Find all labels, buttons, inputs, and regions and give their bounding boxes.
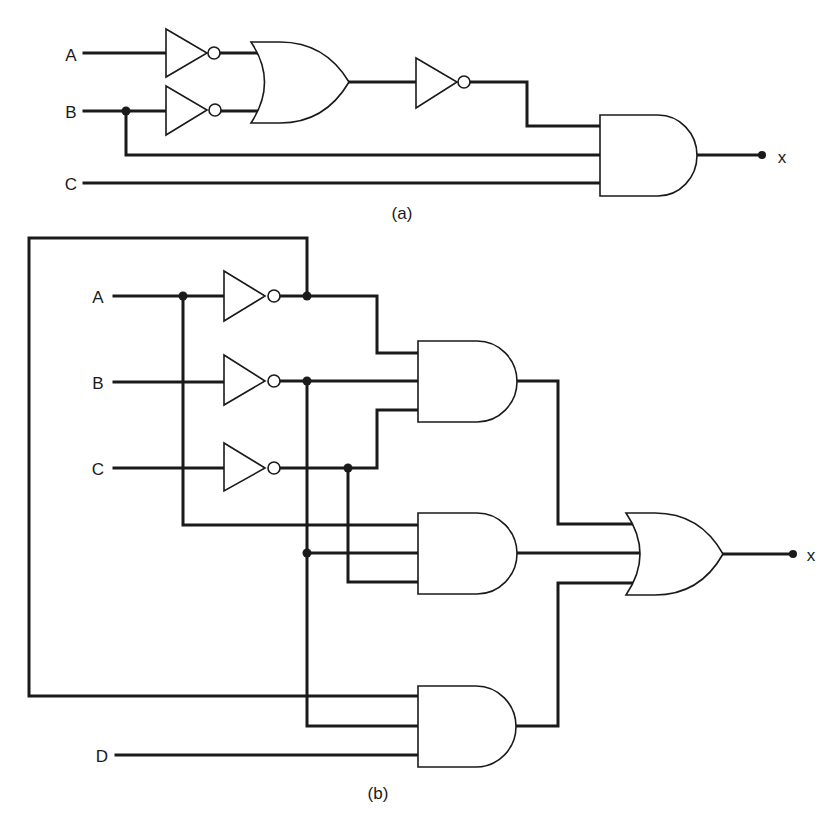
junction-dot-icon	[303, 549, 312, 558]
or-gate-icon	[626, 513, 723, 595]
not-gate-icon	[416, 58, 457, 108]
not-gate-icon	[166, 86, 207, 135]
not-gate-icon	[224, 355, 265, 405]
wire-a-B-branch	[126, 111, 600, 155]
wire-b-and1-to-or	[517, 381, 640, 524]
not-gate-icon	[224, 443, 265, 491]
wire-b-notC-to-and1	[280, 410, 418, 468]
not-gate-icon	[166, 29, 207, 77]
inversion-bubble-icon	[209, 104, 221, 116]
junction-dot-icon	[344, 464, 353, 473]
output-label-b-x: x	[807, 547, 816, 564]
or-gate-icon	[251, 42, 349, 123]
input-label-a-A: A	[65, 47, 76, 64]
output-terminal-icon	[789, 550, 797, 558]
input-label-b-C: C	[92, 461, 104, 478]
circuit-b	[29, 238, 797, 767]
wire-b-notA-to-and1	[280, 296, 418, 353]
inversion-bubble-icon	[208, 47, 220, 59]
and-gate-icon	[418, 513, 517, 594]
logic-diagram	[0, 0, 830, 818]
and-gate-icon	[418, 686, 516, 767]
inversion-bubble-icon	[458, 76, 470, 88]
not-gate-icon	[224, 271, 265, 321]
output-terminal-icon	[758, 151, 766, 159]
junction-dot-icon	[179, 292, 188, 301]
input-label-b-D: D	[96, 748, 108, 765]
junction-dot-icon	[122, 107, 131, 116]
output-label-a-x: x	[778, 149, 787, 166]
junction-dot-icon	[303, 292, 312, 301]
input-label-a-B: B	[65, 104, 76, 121]
inversion-bubble-icon	[268, 375, 280, 387]
input-label-b-B: B	[92, 375, 103, 392]
input-label-b-A: A	[92, 289, 103, 306]
junction-dot-icon	[303, 377, 312, 386]
inversion-bubble-icon	[268, 462, 280, 474]
circuit-a	[84, 29, 766, 196]
wire-a-not-to-and	[471, 82, 600, 126]
and-gate-icon	[600, 115, 697, 196]
caption-b: (b)	[368, 785, 389, 802]
wire-b-and3-to-or	[516, 583, 640, 726]
and-gate-icon	[418, 341, 517, 422]
caption-a: (a)	[392, 205, 413, 222]
input-label-a-C: C	[65, 176, 77, 193]
inversion-bubble-icon	[268, 290, 280, 302]
